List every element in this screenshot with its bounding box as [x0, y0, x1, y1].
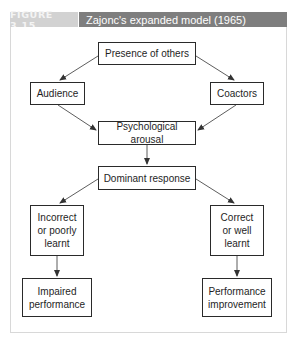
node-audience: Audience [30, 82, 85, 105]
node-psychological-arousal: Psychological arousal [98, 121, 196, 145]
node-impaired-performance: Impaired performance [22, 278, 92, 317]
node-dominant-response: Dominant response [98, 166, 196, 190]
node-correct-or-well-learnt: Correct or well learnt [210, 205, 264, 256]
node-presence-of-others: Presence of others [98, 42, 196, 65]
node-incorrect-or-poorly-learnt: Incorrect or poorly learnt [30, 205, 84, 256]
node-coactors: Coactors [210, 82, 264, 105]
figure-label: FIGURE 3.15 [10, 12, 78, 27]
figure-title: Zajonc's expanded model (1965) [79, 12, 287, 27]
node-performance-improvement: Performance improvement [202, 278, 272, 317]
